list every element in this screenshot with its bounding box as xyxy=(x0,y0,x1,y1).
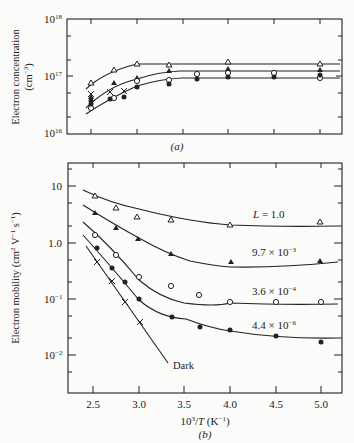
plot-frame-a xyxy=(67,19,342,134)
ytick-label-0.1: 10−1 xyxy=(44,293,63,305)
panel-a: 1018 1017 1016 Electron concentration (c… xyxy=(10,13,342,153)
ytick-label-1: 1.0 xyxy=(48,237,62,249)
series-L1-a xyxy=(88,59,323,85)
annotation-L1: L = 1.0 xyxy=(252,208,285,220)
y-axis-label-a: Electron concentration (cm−3) xyxy=(10,29,35,125)
fit-curves-a xyxy=(86,64,340,114)
fit-curve-36e-4-b xyxy=(83,222,338,305)
panel-label-a: (a) xyxy=(171,140,184,153)
y-axis-label-b: Electron mobility (cm2 V−1 s−1) xyxy=(9,212,22,344)
series-dark-a xyxy=(88,88,127,97)
series-L1-b xyxy=(92,193,323,227)
svg-text:Electron concentration: Electron concentration xyxy=(10,29,21,125)
svg-text:4.0: 4.0 xyxy=(223,398,237,410)
xtick-labels-b: 2.5 3.0 3.5 4.0 4.5 5.0 xyxy=(86,398,328,410)
svg-text:3.0: 3.0 xyxy=(132,398,146,410)
annotation-97e-3: 9.7 × 10−3 xyxy=(252,246,296,258)
y-ticks-a xyxy=(67,36,342,117)
svg-text:3.5: 3.5 xyxy=(177,398,191,410)
fit-curves-b xyxy=(83,190,338,363)
ytick-label-1e16: 1016 xyxy=(44,127,63,139)
ytick-label-0.01: 10−2 xyxy=(44,349,63,361)
ytick-label-10: 10 xyxy=(51,180,63,192)
figure: 1018 1017 1016 Electron concentration (c… xyxy=(0,0,354,443)
annotation-44e-6: 4.4 × 10−6 xyxy=(252,319,296,331)
annotation-dark: Dark xyxy=(173,360,195,371)
svg-text:4.5: 4.5 xyxy=(269,398,283,410)
x-ticks-a xyxy=(91,19,320,134)
x-axis-label-b: 103/T (K−1) xyxy=(180,415,230,428)
series-44e-6-b xyxy=(95,246,324,345)
ytick-label-1e17: 1017 xyxy=(44,70,63,82)
panel-label-b: (b) xyxy=(199,428,212,441)
x-ticks-b xyxy=(93,163,321,393)
ytick-label-1e18: 1018 xyxy=(44,13,63,25)
fit-curve-L1-b xyxy=(83,190,338,226)
annotation-36e-4: 3.6 × 10−4 xyxy=(252,285,296,297)
panel-b: 10 1.0 10−1 10−2 2.5 3.0 3.5 4.0 4.5 5.0… xyxy=(9,163,342,441)
series-36e-4-b xyxy=(92,232,323,304)
svg-text:2.5: 2.5 xyxy=(86,398,100,410)
fit-curve-44e-6-b xyxy=(83,235,338,338)
y-ticks-b xyxy=(68,169,342,372)
svg-text:5.0: 5.0 xyxy=(314,398,328,410)
fit-curve-97e-3-a xyxy=(86,71,340,108)
svg-text:(cm−3): (cm−3) xyxy=(22,63,35,91)
fit-curve-L1-a xyxy=(86,64,340,89)
svg-text:Electron mobility (cm2 V−1 s−1: Electron mobility (cm2 V−1 s−1) xyxy=(9,212,22,344)
